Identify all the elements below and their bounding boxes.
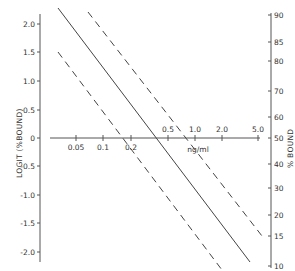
right-tick-label: 60 bbox=[274, 113, 284, 122]
x-tick-label: 2.0 bbox=[216, 125, 228, 134]
right-tick-label: 50 bbox=[274, 134, 284, 143]
x-tick-label: 0.05 bbox=[68, 143, 85, 152]
left-tick-label: 1.5 bbox=[23, 48, 35, 57]
right-tick-label: 15 bbox=[274, 232, 284, 241]
right-tick-label: 80 bbox=[274, 57, 284, 66]
right-axis-title: % BOUND bbox=[286, 129, 295, 168]
right-tick-label: 20 bbox=[274, 211, 284, 220]
right-tick-label: 10 bbox=[274, 262, 284, 271]
right-tick-group: 9085807060504030201510 bbox=[268, 11, 284, 271]
left-tick-label: 0 bbox=[30, 134, 35, 143]
right-tick-label: 40 bbox=[274, 160, 284, 169]
x-axis-unit-label: ng/ml bbox=[187, 145, 208, 154]
left-axis-title: LOGIT (%BOUND) bbox=[15, 108, 24, 178]
x-tick-label: 0.1 bbox=[97, 143, 109, 152]
left-tick-label: 2.0 bbox=[23, 20, 35, 29]
left-tick-label: 1.0 bbox=[23, 77, 35, 86]
left-tick-label: -1.5 bbox=[20, 219, 35, 228]
x-tick-label: 0.5 bbox=[162, 125, 174, 134]
left-tick-label: 0.5 bbox=[23, 106, 35, 115]
upper-dashed-line bbox=[88, 12, 262, 236]
x-tick-label: 0.2 bbox=[125, 143, 137, 152]
right-tick-label: 90 bbox=[274, 11, 284, 20]
right-tick-label: 85 bbox=[274, 38, 284, 47]
right-tick-label: 70 bbox=[274, 87, 284, 96]
solid-fit-line bbox=[58, 8, 250, 262]
x-tick-label: 5.0 bbox=[252, 125, 264, 134]
x-tick-label: 1.0 bbox=[189, 125, 201, 134]
lower-dashed-line bbox=[58, 52, 222, 270]
logit-chart: 2.01.51.00.50-0.5-1.0-1.5-2.0 9085807060… bbox=[0, 0, 295, 271]
left-tick-label: -2.0 bbox=[20, 248, 35, 257]
left-tick-label: -1.0 bbox=[20, 191, 35, 200]
right-tick-label: 30 bbox=[274, 184, 284, 193]
